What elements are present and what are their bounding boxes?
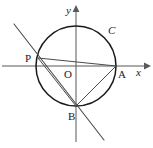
secant-line-through-P-B [14, 24, 104, 140]
geometry-canvas: P A B O C y x [0, 0, 153, 148]
segment-PA [38, 58, 116, 66]
geometry-figure: P A B O C y x [0, 0, 153, 148]
x-axis-label: x [135, 66, 141, 78]
x-axis-arrowhead [144, 63, 151, 70]
y-axis-label: y [65, 4, 71, 16]
circle-label-C: C [108, 24, 116, 36]
point-label-P: P [25, 52, 31, 64]
inscribed-segments-group [38, 58, 116, 106]
origin-label-O: O [64, 68, 72, 80]
y-axis-arrowhead [73, 5, 80, 12]
point-label-A: A [118, 68, 126, 80]
segment-PB [38, 58, 76, 106]
point-label-B: B [68, 110, 75, 122]
